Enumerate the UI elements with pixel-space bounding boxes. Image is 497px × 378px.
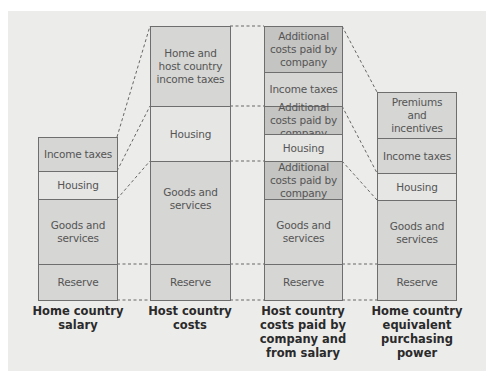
segment-label: Goods and services <box>385 220 449 246</box>
segment-label: Reserve <box>395 276 440 289</box>
segment-home-and-host-income-taxes: Home and host country income taxes <box>150 26 231 107</box>
connector-housing-top <box>342 106 377 173</box>
segment-label: Reserve <box>168 276 213 289</box>
segment-label: Housing <box>394 181 439 194</box>
segment-housing: Housing <box>264 134 343 162</box>
segment-label: Premiums and incentives <box>379 96 455 135</box>
segment-income-taxes: Income taxes <box>38 137 118 172</box>
segment-label: Income taxes <box>42 148 114 161</box>
segment-reserve: Reserve <box>377 264 457 301</box>
segment-label: Additional costs paid by company <box>265 161 342 200</box>
segment-goods-and-services: Goods and services <box>150 161 231 265</box>
segment-label: Reserve <box>281 276 326 289</box>
segment-additional-costs-paid-by-company: Additional costs paid by company <box>264 106 343 135</box>
segment-goods-and-services: Goods and services <box>377 200 457 265</box>
column-caption: Home country equivalent purchasing power <box>362 304 472 360</box>
segment-housing: Housing <box>377 173 457 201</box>
segment-label: Home and host country income taxes <box>153 47 229 86</box>
segment-label: Housing <box>55 179 100 192</box>
segment-housing: Housing <box>38 171 118 200</box>
segment-premiums-and-incentives: Premiums and incentives <box>377 92 457 139</box>
segment-label: Income taxes <box>268 83 340 96</box>
segment-reserve: Reserve <box>38 264 118 301</box>
column-caption: Home country salary <box>23 304 133 332</box>
segment-label: Goods and services <box>46 219 110 245</box>
connector-goods-top <box>117 161 150 199</box>
segment-goods-and-services: Goods and services <box>264 199 343 265</box>
segment-label: Housing <box>281 142 326 155</box>
segment-housing: Housing <box>150 106 231 162</box>
segment-label: Housing <box>168 128 213 141</box>
segment-reserve: Reserve <box>264 264 343 301</box>
segment-label: Additional costs paid by company <box>265 30 342 69</box>
column-caption: Host country costs <box>135 304 245 332</box>
connector-goods-top <box>342 161 377 200</box>
segment-label: Goods and services <box>272 219 336 245</box>
segment-goods-and-services: Goods and services <box>38 199 118 265</box>
connector-housing-top <box>117 106 150 171</box>
segment-income-taxes: Income taxes <box>377 138 457 174</box>
segment-additional-costs-paid-by-company: Additional costs paid by company <box>264 26 343 73</box>
segment-label: Reserve <box>56 276 101 289</box>
segment-label: Income taxes <box>381 150 453 163</box>
column-caption: Host country costs paid by company and f… <box>248 304 358 360</box>
segment-additional-costs-paid-by-company: Additional costs paid by company <box>264 161 343 200</box>
connector-top <box>117 26 150 137</box>
segment-reserve: Reserve <box>150 264 231 301</box>
segment-label: Goods and services <box>159 186 223 212</box>
connector-top <box>342 26 377 92</box>
